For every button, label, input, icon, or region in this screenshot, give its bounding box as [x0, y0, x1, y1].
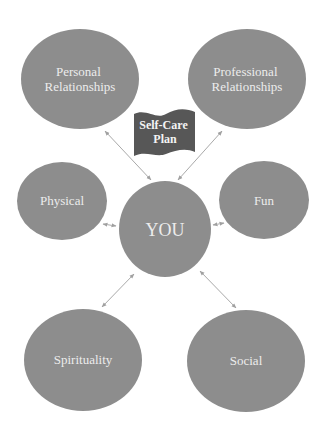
connector-you-fun [213, 223, 224, 225]
label-line: Relationships [45, 79, 116, 94]
node-social-label: Social [230, 353, 263, 368]
label-line: Personal [56, 64, 101, 79]
self-care-diagram: Personal Relationships Professional Rela… [0, 0, 325, 434]
node-professional-relationships: Professional Relationships [188, 29, 306, 129]
connector-you-spirituality [102, 274, 134, 307]
node-spirituality: Spirituality [24, 309, 142, 411]
banner-line: Self-Care [139, 118, 188, 132]
node-physical: Physical [17, 162, 107, 240]
node-spirituality-label: Spirituality [54, 352, 113, 367]
node-professional-relationships-label: Professional Relationships [212, 64, 283, 94]
node-personal-relationships: Personal Relationships [21, 29, 139, 129]
node-you-label: YOU [146, 220, 185, 240]
self-care-plan-banner: Self-Care Plan [134, 109, 195, 156]
connector-you-social [200, 271, 236, 308]
label-line: Relationships [212, 79, 283, 94]
node-physical-label: Physical [40, 193, 84, 208]
connector-you-physical [103, 224, 116, 226]
label-line: Professional [213, 64, 278, 79]
node-you: YOU [119, 181, 211, 277]
node-fun: Fun [219, 161, 309, 239]
node-fun-label: Fun [254, 193, 275, 208]
banner-line: Plan [153, 132, 177, 146]
node-social: Social [187, 310, 305, 412]
